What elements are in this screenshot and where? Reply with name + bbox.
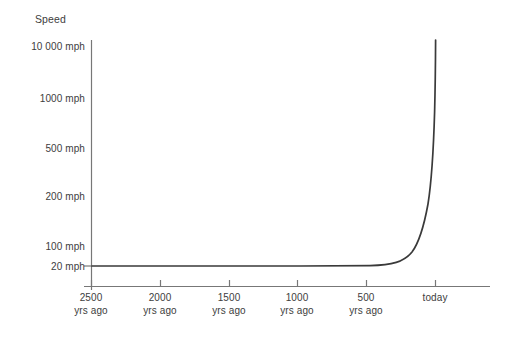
y-tick-label-10000: 10 000 mph	[31, 41, 85, 52]
y-tick-label-500: 500 mph	[45, 143, 85, 154]
speed-over-time-chart: Speed 10 000 mph 1000 mph 500 mph 200 mp…	[0, 0, 515, 337]
x-tick-label-1000-value: 1000	[286, 292, 309, 303]
x-tick-label-1500-value: 1500	[218, 292, 241, 303]
x-tick-label-today-value: today	[423, 292, 448, 303]
x-tick-label-500-value: 500	[358, 292, 375, 303]
x-tick-label-2500-value: 2500	[80, 292, 103, 303]
speed-curve	[92, 40, 436, 266]
y-axis-title: Speed	[35, 13, 66, 25]
y-tick-label-1000: 1000 mph	[40, 93, 85, 104]
y-tick-label-100: 100 mph	[45, 241, 85, 252]
y-tick-label-20: 20 mph	[51, 261, 85, 272]
x-tick-label-2500: 2500 yrs ago	[51, 292, 131, 317]
x-tick-label-500-unit: yrs ago	[326, 305, 406, 318]
x-tick-label-500: 500 yrs ago	[326, 292, 406, 317]
x-tick-label-2000: 2000 yrs ago	[120, 292, 200, 317]
x-tick-label-1000-unit: yrs ago	[257, 305, 337, 318]
y-tick-label-200: 200 mph	[45, 191, 85, 202]
x-tick-label-2000-value: 2000	[149, 292, 172, 303]
x-tick-label-2000-unit: yrs ago	[120, 305, 200, 318]
x-tick-label-2500-unit: yrs ago	[51, 305, 131, 318]
x-tick-label-today: today	[395, 292, 475, 305]
x-tick-label-1000: 1000 yrs ago	[257, 292, 337, 317]
